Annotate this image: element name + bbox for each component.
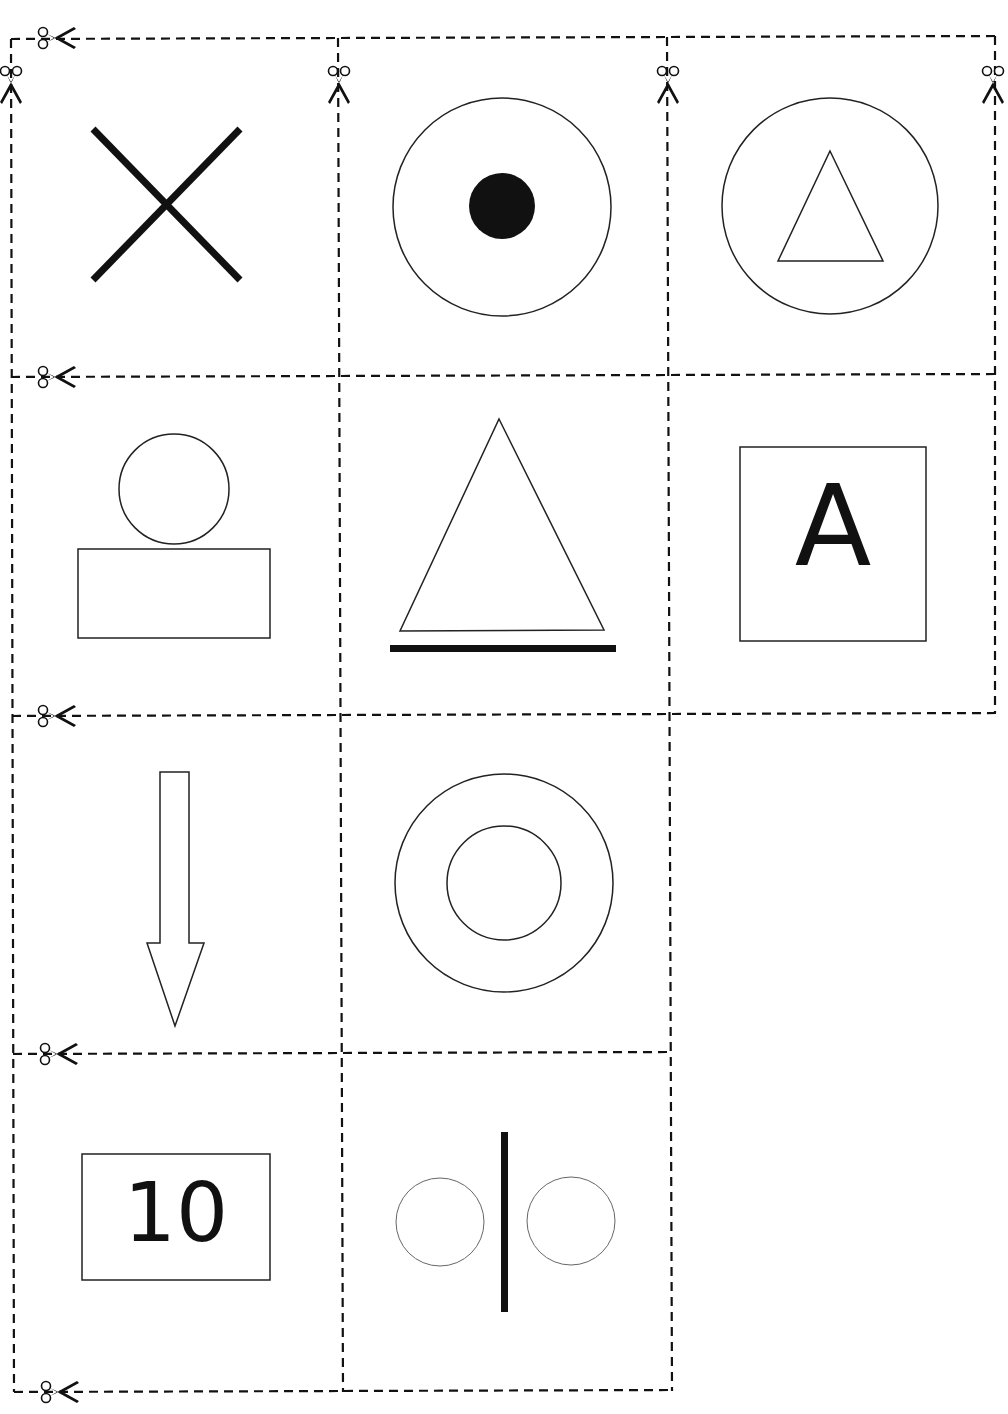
cut-line-top <box>11 36 996 39</box>
cut-line-col3 <box>667 37 672 1391</box>
card-triangle-on-bar <box>390 419 616 652</box>
card-circle-dot <box>393 98 611 316</box>
bar-icon <box>390 645 616 652</box>
circle-icon <box>119 434 229 544</box>
card-concentric-circles <box>395 774 613 992</box>
right-circle-icon <box>527 1177 615 1265</box>
card-letter-label: A <box>740 470 926 582</box>
card-circle-on-rectangle <box>78 434 270 638</box>
card-cross <box>93 129 240 280</box>
outer-circle-icon <box>395 774 613 992</box>
card-circles-divided <box>396 1132 615 1312</box>
left-circle-icon <box>396 1178 484 1266</box>
circle-icon <box>722 98 938 314</box>
card-triangle-in-circle <box>722 98 938 314</box>
divider-bar-icon <box>501 1132 508 1312</box>
triangle-icon <box>778 151 883 261</box>
cut-line-row3 <box>12 713 996 716</box>
card-number-label: 10 <box>82 1172 270 1254</box>
cut-line-left <box>11 39 14 1392</box>
inner-circle-icon <box>447 826 561 940</box>
card-down-arrow <box>147 772 204 1026</box>
filled-dot-icon <box>469 173 535 239</box>
scissors-icon <box>982 67 1004 105</box>
rectangle-icon <box>78 549 270 638</box>
cut-line-row2 <box>11 374 996 377</box>
cut-line-row4 <box>13 1052 671 1054</box>
down-arrow-icon <box>147 772 204 1026</box>
triangle-icon <box>400 419 604 631</box>
